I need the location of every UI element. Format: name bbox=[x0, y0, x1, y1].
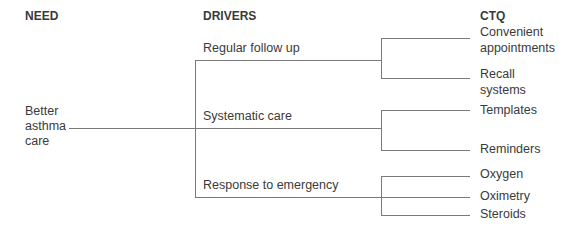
ctq-spine-2 bbox=[381, 110, 382, 151]
header-drivers: DRIVERS bbox=[203, 8, 256, 24]
driver-response-to-emergency: Response to emergency bbox=[203, 177, 339, 193]
ctq-line: systems bbox=[480, 82, 526, 98]
need-line: care bbox=[25, 133, 49, 149]
ctq-branch bbox=[381, 78, 470, 79]
ctq-convenient-appointments: Convenient appointments bbox=[480, 24, 555, 56]
driver-branch-2 bbox=[195, 128, 382, 129]
ctq-templates: Templates bbox=[480, 102, 537, 118]
need-line: asthma bbox=[25, 118, 66, 134]
ctq-line: Recall bbox=[480, 66, 526, 82]
driver-spine bbox=[195, 60, 196, 198]
ctq-line: Convenient bbox=[480, 24, 555, 40]
driver-systematic-care: Systematic care bbox=[203, 108, 292, 124]
ctq-spine-1 bbox=[381, 38, 382, 79]
ctq-steroids: Steroids bbox=[480, 206, 526, 222]
header-need: NEED bbox=[25, 8, 58, 24]
ctq-oximetry: Oximetry bbox=[480, 188, 530, 204]
driver-branch-3 bbox=[195, 197, 470, 198]
need-connector bbox=[69, 128, 196, 129]
ctq-branch bbox=[381, 150, 470, 151]
driver-regular-follow-up: Regular follow up bbox=[203, 40, 300, 56]
need-line: Better bbox=[25, 103, 58, 119]
ctq-branch bbox=[381, 215, 470, 216]
driver-branch-1 bbox=[195, 60, 382, 61]
ctq-branch bbox=[381, 38, 470, 39]
ctq-branch bbox=[381, 110, 470, 111]
ctq-line: appointments bbox=[480, 40, 555, 56]
header-ctq: CTQ bbox=[480, 8, 505, 24]
ctq-spine-3 bbox=[381, 176, 382, 216]
ctq-reminders: Reminders bbox=[480, 141, 540, 157]
ctq-branch bbox=[381, 176, 470, 177]
ctq-oxygen: Oxygen bbox=[480, 166, 523, 182]
ctq-recall-systems: Recall systems bbox=[480, 66, 526, 98]
